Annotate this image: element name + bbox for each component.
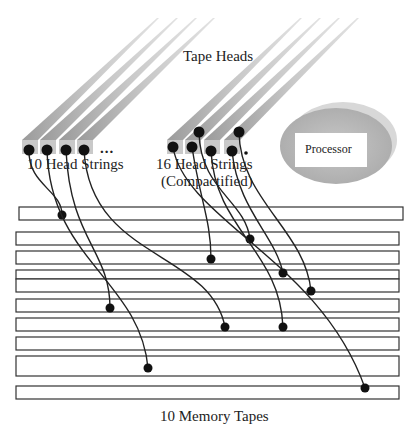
tape-read-position <box>221 323 230 332</box>
tape-read-position <box>144 364 153 373</box>
memory-tape <box>16 318 399 331</box>
compactified-label: (Compactified) <box>161 173 253 190</box>
head-dot <box>168 142 179 153</box>
memory-tape <box>16 270 399 279</box>
head-dot <box>79 145 90 156</box>
memory-tape <box>16 299 399 312</box>
small-dot <box>244 151 248 155</box>
right-head-strings-label: 16 Head Strings <box>156 156 253 173</box>
turing-machine-diagram: Tape Heads 10 Head Strings ... 16 Head S… <box>0 0 417 425</box>
head-dot <box>42 145 53 156</box>
memory-tapes-label: 10 Memory Tapes <box>160 408 269 425</box>
tape-read-position <box>207 255 216 264</box>
memory-tape <box>16 386 399 399</box>
tape-read-position <box>307 287 316 296</box>
tape-head-beam <box>59 18 197 140</box>
head-dot <box>234 127 245 138</box>
head-dot <box>61 145 72 156</box>
tape-read-position <box>106 304 115 313</box>
head-dot <box>227 146 238 157</box>
tape-read-position <box>279 323 288 332</box>
ellipsis: ... <box>100 140 114 157</box>
head-dot <box>24 145 35 156</box>
memory-tape <box>16 356 399 376</box>
memory-tape <box>16 232 399 245</box>
head-dot <box>206 146 217 157</box>
head-dot <box>187 142 198 153</box>
head-dot <box>194 127 205 138</box>
tape-read-position <box>279 269 288 278</box>
tape-read-position <box>361 384 370 393</box>
processor-label: Processor <box>305 142 352 157</box>
left-head-strings-label: 10 Head Strings <box>27 156 124 173</box>
tape-heads-label: Tape Heads <box>183 48 253 65</box>
memory-tape <box>16 279 399 292</box>
